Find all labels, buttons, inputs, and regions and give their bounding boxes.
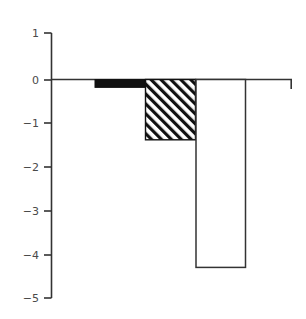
y-tick-label-minus-3: −3 [23, 205, 39, 218]
bar-1-solid-black [95, 80, 145, 88]
y-tick-label-1: 1 [32, 27, 39, 40]
y-tick-label-minus-4: −4 [23, 249, 39, 262]
y-tick-label-minus-2: −2 [23, 161, 39, 174]
y-tick-label-minus-1: −1 [23, 117, 39, 130]
bar-2-hatched [146, 80, 196, 140]
chart-container: Lumbar spine 1 0 −1 −2 −3 [0, 0, 306, 319]
y-tick-label-0: 0 [32, 74, 39, 87]
bar-3-open-white [196, 80, 246, 268]
y-tick-label-minus-5: −5 [23, 292, 39, 305]
plot-background [0, 0, 306, 319]
bar-chart-plot: 1 0 −1 −2 −3 −4 −5 [0, 0, 306, 319]
